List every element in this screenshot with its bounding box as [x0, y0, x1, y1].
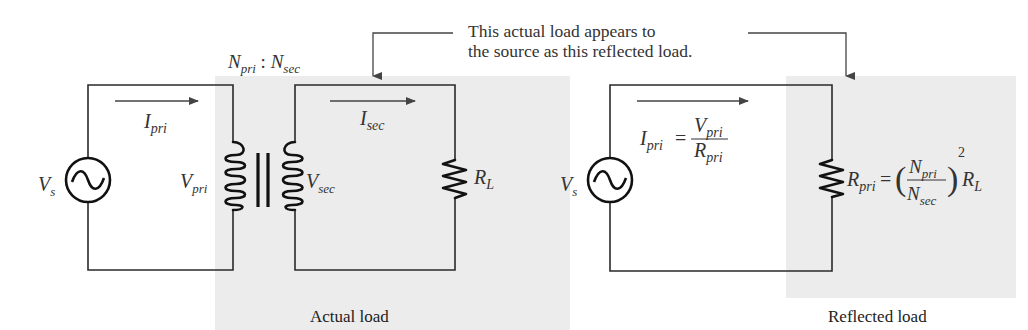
annotation-line-2: the source as this reflected load.: [468, 41, 693, 61]
primary-voltage-label: Vpri: [180, 170, 208, 196]
ac-source-icon: [66, 158, 110, 202]
callout-arrow-right-icon: [748, 33, 846, 76]
svg-text:Rpri: Rpri: [693, 139, 723, 165]
svg-text:Ipri: Ipri: [639, 127, 663, 153]
callout-arrow-left-icon: [373, 33, 453, 76]
annotation-line-1: This actual load appears to: [468, 21, 656, 41]
svg-text:(: (: [895, 160, 906, 198]
svg-text:2: 2: [958, 145, 965, 160]
svg-text:=: =: [675, 127, 686, 149]
svg-text:): ): [947, 160, 958, 198]
reflected-load-caption: Reflected load: [828, 307, 927, 326]
svg-text:=: =: [880, 168, 891, 190]
ac-source-icon: [588, 158, 632, 202]
svg-text:Vpri: Vpri: [694, 114, 723, 140]
primary-current-label: Ipri: [143, 110, 167, 136]
circuit-canvas: Vs Ipri Npri : Nsec Vpri Vsec Isec RL Ac…: [0, 0, 1028, 330]
source-label-left: Vs: [38, 173, 55, 199]
turns-ratio-label: Npri : Nsec: [227, 51, 300, 76]
actual-load-caption: Actual load: [310, 307, 389, 326]
reflected-load-diagram: Vs Ipri Npri : Nsec Vpri Vsec Isec RL Ac…: [0, 0, 1028, 330]
current-formula: Ipri = Vpri Rpri: [639, 114, 728, 165]
